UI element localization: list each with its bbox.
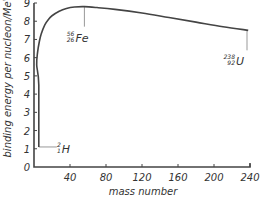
y-tick-label: 7: [24, 34, 31, 45]
x-tick-label: 240: [240, 172, 259, 183]
isotope-symbol: U: [236, 55, 244, 68]
annotation-h: 21H: [39, 141, 70, 156]
x-tick-label: 80: [100, 172, 113, 183]
y-axis-label: binding energy per nucleon/MeV: [2, 0, 13, 158]
binding-energy-curve: [37, 7, 249, 147]
y-tick-label: 3: [24, 107, 30, 118]
y-tick-label: 8: [24, 16, 30, 27]
isotope-atomic-number: 26: [67, 36, 75, 43]
x-axis-label: mass number: [109, 186, 178, 197]
x-tick-label: 160: [168, 172, 187, 183]
y-tick-label: 9: [24, 0, 30, 9]
x-tick-label: 200: [204, 172, 223, 183]
y-tick-label: 2: [24, 126, 30, 137]
y-tick-label: 5: [24, 71, 30, 82]
isotope-symbol: H: [62, 143, 70, 156]
isotope-annotations: 5626Fe23892U21H: [39, 7, 247, 156]
annotation-u: 23892U: [224, 30, 247, 68]
binding-energy-chart: 0123456789 4080120160200240 5626Fe23892U…: [0, 0, 260, 203]
isotope-symbol: Fe: [75, 32, 88, 45]
y-tick-label: 4: [24, 89, 30, 100]
annotation-fe: 5626Fe: [67, 7, 89, 45]
isotope-atomic-number: 1: [57, 147, 61, 154]
x-tick-label: 120: [132, 172, 151, 183]
y-tick-label: 6: [24, 53, 30, 64]
y-axis-ticks: 0123456789: [24, 0, 37, 173]
x-tick-label: 40: [64, 172, 77, 183]
y-tick-label: 1: [24, 144, 30, 155]
y-tick-label: 0: [24, 162, 30, 173]
isotope-atomic-number: 92: [227, 59, 235, 66]
